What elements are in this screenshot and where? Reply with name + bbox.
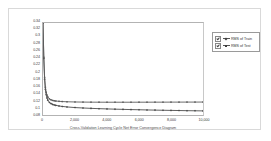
x-axis: 02,0004,0006,0008,00010,000 bbox=[42, 118, 204, 126]
legend-item-2[interactable]: RMS of Test bbox=[215, 42, 257, 49]
legend-item-label: RMS of Test bbox=[231, 44, 251, 48]
chart-screenshot: 0.340.320.30.280.260.240.220.20.180.160.… bbox=[0, 0, 271, 141]
legend-item-label: RMS of Train bbox=[231, 37, 252, 41]
x-tick-label: 2,000 bbox=[70, 118, 79, 122]
chart-card: 0.340.320.30.280.260.240.220.20.180.160.… bbox=[8, 8, 261, 130]
y-tick-label: 0.2 bbox=[19, 71, 40, 75]
series-markers-1 bbox=[43, 23, 203, 112]
x-tick-label: 10,000 bbox=[199, 118, 210, 122]
plot-area bbox=[42, 22, 204, 116]
checkmark-icon[interactable] bbox=[215, 43, 221, 49]
y-tick-label: 0.16 bbox=[19, 85, 40, 89]
series-markers-2 bbox=[43, 23, 203, 103]
plot-svg bbox=[43, 23, 203, 115]
y-tick-label: 0.18 bbox=[19, 78, 40, 82]
y-tick-label: 0.28 bbox=[19, 42, 40, 46]
chart-caption: Cross-Validation Learning Cycle Net Erro… bbox=[42, 126, 204, 131]
series-line-2 bbox=[43, 23, 203, 102]
y-tick-label: 0.34 bbox=[19, 20, 40, 24]
chart-legend[interactable]: RMS of TrainRMS of Test bbox=[212, 32, 260, 52]
y-tick-label: 0.1 bbox=[19, 107, 40, 111]
y-axis: 0.340.320.30.280.260.240.220.20.180.160.… bbox=[19, 22, 40, 116]
x-tick-label: 0 bbox=[41, 118, 43, 122]
y-tick-label: 0.26 bbox=[19, 49, 40, 53]
y-tick-label: 0.22 bbox=[19, 64, 40, 68]
legend-item-1[interactable]: RMS of Train bbox=[215, 35, 257, 42]
y-tick-label: 0.24 bbox=[19, 56, 40, 60]
series-line-1 bbox=[43, 23, 203, 111]
x-tick-label: 8,000 bbox=[167, 118, 176, 122]
y-tick-label: 0.3 bbox=[19, 35, 40, 39]
checkmark-icon[interactable] bbox=[215, 36, 221, 42]
y-tick-label: 0.08 bbox=[19, 114, 40, 118]
y-tick-label: 0.12 bbox=[19, 100, 40, 104]
x-tick-label: 6,000 bbox=[135, 118, 144, 122]
legend-line-marker-icon bbox=[223, 37, 230, 41]
legend-line-marker-icon bbox=[223, 44, 230, 48]
x-tick-label: 4,000 bbox=[102, 118, 111, 122]
y-tick-label: 0.32 bbox=[19, 27, 40, 31]
y-tick-label: 0.14 bbox=[19, 93, 40, 97]
